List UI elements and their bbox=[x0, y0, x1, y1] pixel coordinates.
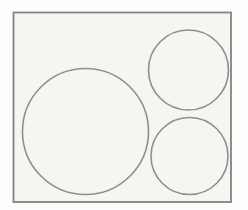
three-circles-figure bbox=[0, 0, 248, 210]
bounding-rectangle bbox=[14, 13, 232, 203]
diagram-canvas bbox=[0, 0, 248, 210]
